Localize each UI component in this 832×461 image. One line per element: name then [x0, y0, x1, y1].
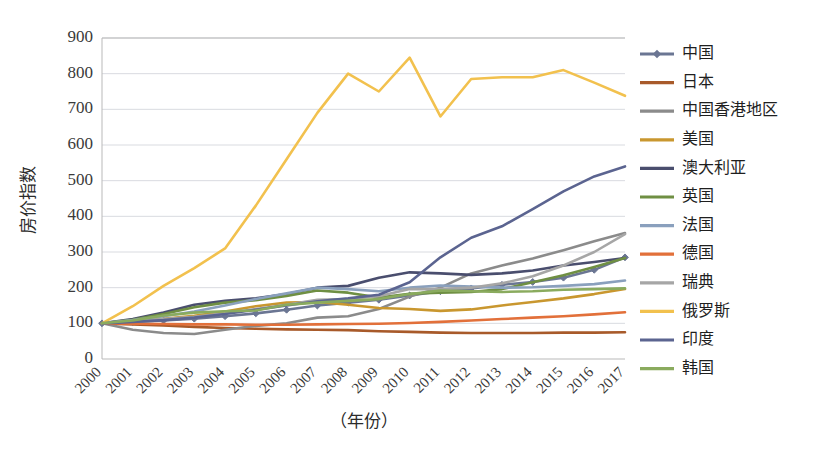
legend-label: 俄罗斯	[682, 302, 730, 319]
y-tick-label: 800	[68, 63, 94, 82]
x-tick-label: 2009	[348, 364, 381, 397]
y-tick-label: 900	[68, 27, 94, 46]
series-marker-中国	[283, 306, 290, 313]
y-tick-label: 100	[68, 312, 94, 331]
x-tick-label: 2013	[472, 364, 505, 397]
y-tick-label: 600	[68, 134, 94, 153]
x-tick-label: 2011	[410, 364, 442, 396]
legend-item-德国[interactable]: 德国	[640, 244, 714, 261]
legend-label: 英国	[682, 187, 714, 204]
x-tick-label: 2002	[133, 364, 166, 397]
x-tick-label: 2012	[441, 364, 474, 397]
x-tick-label: 2008	[318, 364, 351, 397]
y-tick-label: 200	[68, 277, 94, 296]
x-tick-label: 2003	[164, 364, 197, 397]
legend-item-英国[interactable]: 英国	[640, 187, 714, 204]
legend-label: 日本	[682, 73, 714, 90]
y-tick-label: 700	[68, 98, 94, 117]
legend-item-中国香港地区[interactable]: 中国香港地区	[640, 101, 778, 118]
legend-label: 美国	[682, 130, 714, 147]
chart-legend: 中国日本中国香港地区美国澳大利亚英国法国德国瑞典俄罗斯印度韩国	[640, 44, 778, 376]
y-axis-tick-labels: 0100200300400500600700800900	[68, 27, 94, 367]
y-axis-title: 房价指数	[19, 166, 38, 234]
line-chart: 0100200300400500600700800900 20002001200…	[0, 0, 832, 461]
y-tick-label: 500	[68, 170, 94, 189]
x-axis-title: （年份）	[330, 412, 398, 431]
x-tick-label: 2014	[502, 363, 535, 396]
chart-figure: 0100200300400500600700800900 20002001200…	[0, 0, 832, 461]
x-tick-label: 2001	[102, 364, 135, 397]
legend-label: 印度	[682, 330, 714, 347]
series-line-俄罗斯	[102, 58, 625, 324]
legend-label: 瑞典	[682, 273, 714, 290]
legend-label: 德国	[682, 244, 714, 261]
x-tick-label: 2010	[379, 364, 412, 397]
legend-item-日本[interactable]: 日本	[640, 73, 714, 90]
legend-item-俄罗斯[interactable]: 俄罗斯	[640, 302, 730, 319]
legend-label: 澳大利亚	[682, 159, 746, 176]
legend-item-美国[interactable]: 美国	[640, 130, 714, 147]
y-tick-label: 400	[68, 205, 94, 224]
x-tick-label: 2006	[256, 363, 289, 396]
legend-label: 中国香港地区	[682, 101, 778, 118]
x-tick-label: 2017	[595, 363, 628, 396]
x-tick-label: 2016	[564, 363, 597, 396]
legend-label: 中国	[682, 44, 714, 61]
series-layer	[99, 58, 629, 334]
legend-item-印度[interactable]: 印度	[640, 330, 714, 347]
legend-item-中国[interactable]: 中国	[640, 44, 714, 61]
legend-label: 法国	[682, 216, 714, 233]
x-axis-tick-labels: 2000200120022003200420052006200720082009…	[72, 363, 628, 396]
x-tick-label: 2007	[287, 363, 320, 396]
x-tick-label: 2015	[533, 364, 566, 397]
legend-marker-中国	[653, 50, 661, 58]
legend-item-韩国[interactable]: 韩国	[640, 359, 714, 376]
legend-item-澳大利亚[interactable]: 澳大利亚	[640, 159, 746, 176]
x-tick-label: 2004	[195, 363, 228, 396]
legend-label: 韩国	[682, 359, 714, 376]
x-tick-label: 2005	[225, 364, 258, 397]
legend-item-瑞典[interactable]: 瑞典	[640, 273, 714, 290]
y-tick-label: 300	[68, 241, 94, 260]
x-tick-label: 2000	[72, 364, 105, 397]
legend-item-法国[interactable]: 法国	[640, 216, 714, 233]
